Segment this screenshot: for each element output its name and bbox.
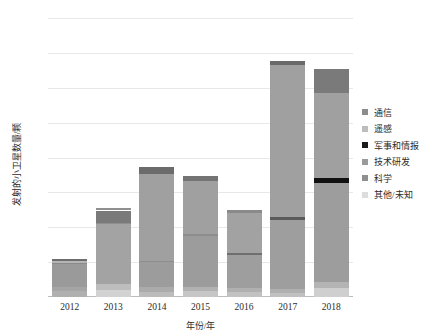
- legend-item-4[interactable]: 科学: [362, 170, 438, 187]
- y-axis-label-wrapper: 发射的小卫星数量/颗: [4, 0, 20, 336]
- legend-item-0[interactable]: 通信: [362, 104, 438, 121]
- bar-segment[interactable]: [227, 213, 262, 253]
- bar-segment[interactable]: [139, 292, 174, 297]
- bar-segment[interactable]: [227, 210, 262, 213]
- bar-segment[interactable]: [96, 211, 131, 224]
- bar-segment[interactable]: [314, 288, 349, 297]
- bar-segment[interactable]: [183, 287, 218, 292]
- bar-segment[interactable]: [52, 264, 87, 287]
- bar-segment[interactable]: [227, 253, 262, 255]
- legend-label: 其他/未知: [374, 188, 413, 201]
- bar-2012[interactable]: [52, 18, 87, 297]
- bar-2018[interactable]: [314, 18, 349, 297]
- bar-segment[interactable]: [183, 291, 218, 297]
- legend-swatch-icon: [362, 109, 368, 115]
- x-axis-tick-2018: 2018: [322, 302, 341, 312]
- bar-segment[interactable]: [270, 65, 305, 218]
- y-axis-label: 发射的小卫星数量/颗: [10, 95, 23, 235]
- bar-segment[interactable]: [52, 261, 87, 262]
- bar-segment[interactable]: [227, 288, 262, 292]
- x-axis-tick-2012: 2012: [60, 302, 79, 312]
- legend-label: 遥感: [374, 122, 392, 135]
- bar-segment[interactable]: [314, 178, 349, 183]
- bar-segment[interactable]: [314, 183, 349, 281]
- bar-segment[interactable]: [227, 292, 262, 297]
- bar-segment[interactable]: [270, 289, 305, 293]
- bar-segment[interactable]: [314, 282, 349, 288]
- bar-segment[interactable]: [96, 208, 131, 210]
- x-axis-tick-2013: 2013: [104, 302, 123, 312]
- legend-item-3[interactable]: 技术研发: [362, 154, 438, 171]
- legend-label: 军事和情报: [374, 139, 419, 152]
- chart-legend: 通信遥感军事和情报技术研发科学其他/未知: [362, 104, 438, 203]
- legend-item-2[interactable]: 军事和情报: [362, 137, 438, 154]
- bar-segment[interactable]: [52, 263, 87, 264]
- legend-swatch-icon: [362, 159, 368, 165]
- legend-label: 通信: [374, 106, 392, 119]
- bar-2015[interactable]: [183, 18, 218, 297]
- bar-segment[interactable]: [270, 293, 305, 297]
- x-axis-tick-2014: 2014: [147, 302, 166, 312]
- bar-segment[interactable]: [96, 284, 131, 290]
- plot-area: 050100150200250300350400: [48, 18, 353, 297]
- bar-segment[interactable]: [52, 259, 87, 262]
- bar-2017[interactable]: [270, 18, 305, 297]
- bar-segment[interactable]: [227, 255, 262, 288]
- bar-segment[interactable]: [139, 287, 174, 292]
- bar-segment[interactable]: [314, 69, 349, 93]
- bar-segment[interactable]: [139, 167, 174, 174]
- bar-2016[interactable]: [227, 18, 262, 297]
- bar-segment[interactable]: [183, 176, 218, 182]
- legend-swatch-icon: [362, 175, 368, 181]
- bar-segment[interactable]: [139, 261, 174, 262]
- bar-segment[interactable]: [183, 234, 218, 235]
- x-axis-tick-2016: 2016: [235, 302, 254, 312]
- bar-segment[interactable]: [139, 174, 174, 260]
- legend-swatch-icon: [362, 142, 368, 148]
- bar-segment[interactable]: [96, 290, 131, 297]
- legend-label: 科学: [374, 172, 392, 185]
- bar-segment[interactable]: [270, 217, 305, 220]
- legend-swatch-icon: [362, 192, 368, 198]
- bar-segment[interactable]: [270, 220, 305, 288]
- legend-item-5[interactable]: 其他/未知: [362, 187, 438, 204]
- bar-2014[interactable]: [139, 18, 174, 297]
- bar-segment[interactable]: [96, 224, 131, 284]
- bar-segment[interactable]: [52, 291, 87, 297]
- x-axis-tick-2015: 2015: [191, 302, 210, 312]
- bar-segment[interactable]: [270, 61, 305, 64]
- bar-2013[interactable]: [96, 18, 131, 297]
- legend-item-1[interactable]: 遥感: [362, 121, 438, 138]
- bar-segment[interactable]: [183, 181, 218, 234]
- legend-swatch-icon: [362, 126, 368, 132]
- bar-segment[interactable]: [314, 93, 349, 179]
- stacked-bar-chart: 发射的小卫星数量/颗 050100150200250300350400 2012…: [0, 0, 439, 336]
- legend-label: 技术研发: [374, 155, 410, 168]
- bar-segment[interactable]: [96, 223, 131, 224]
- x-axis-label: 年份/年: [0, 319, 401, 332]
- x-axis-tick-2017: 2017: [278, 302, 297, 312]
- bar-segment[interactable]: [139, 262, 174, 287]
- bar-segment[interactable]: [52, 287, 87, 291]
- bar-segment[interactable]: [183, 236, 218, 287]
